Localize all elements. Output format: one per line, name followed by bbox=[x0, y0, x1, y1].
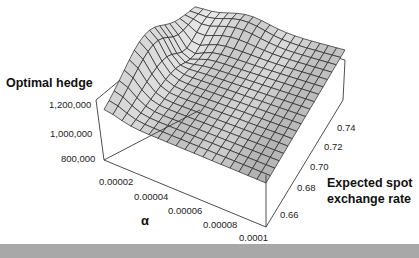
x-tick-0.00006: 0.00006 bbox=[168, 205, 202, 216]
y-tick-0.66: 0.66 bbox=[280, 209, 299, 220]
y-tick-0.68: 0.68 bbox=[297, 182, 316, 193]
y-axis-title-line1: Expected spot bbox=[327, 176, 412, 190]
z-tick-800000: 800,000 bbox=[61, 153, 95, 164]
x-axis-title: α bbox=[141, 213, 149, 228]
z-tick-1000000: 1,000,000 bbox=[50, 128, 92, 139]
z-tick-1200000: 1,200,000 bbox=[49, 99, 91, 110]
x-tick-0.0001: 0.0001 bbox=[239, 232, 268, 243]
x-tick-0.00004: 0.00004 bbox=[134, 191, 168, 202]
y-tick-0.72: 0.72 bbox=[324, 141, 343, 152]
z-axis-title: Optimal hedge bbox=[6, 76, 93, 90]
y-axis-title-line2: exchange rate bbox=[327, 192, 411, 206]
x-tick-0.00008: 0.00008 bbox=[203, 219, 237, 230]
bottom-border-strip bbox=[0, 244, 419, 258]
y-tick-0.70: 0.70 bbox=[310, 161, 329, 172]
y-tick-0.74: 0.74 bbox=[337, 122, 356, 133]
x-tick-0.00002: 0.00002 bbox=[99, 176, 133, 187]
